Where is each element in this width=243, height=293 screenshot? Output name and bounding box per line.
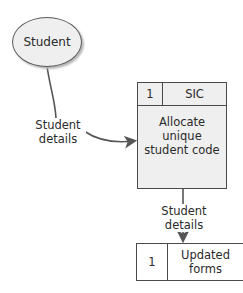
flow-label-line1: Student <box>30 118 86 132</box>
flow-label-student-details-1: Student details <box>30 118 86 146</box>
flow-label-line2: details <box>156 218 212 232</box>
flow-arrow-student-to-process <box>47 66 56 118</box>
process-id: 1 <box>138 83 163 105</box>
store-id: 1 <box>137 244 168 280</box>
store-name: Updated forms <box>168 244 243 280</box>
process-box: 1 SIC Allocate unique student code <box>137 82 227 189</box>
flow-label-student-details-2: Student details <box>156 204 212 232</box>
process-code: SIC <box>163 83 226 105</box>
process-description: Allocate unique student code <box>138 106 226 166</box>
entity-label: Student <box>23 35 70 49</box>
external-entity-student: Student <box>12 17 82 67</box>
flow-arrow-into-process <box>84 131 134 142</box>
flow-label-line2: details <box>30 132 86 146</box>
data-store-updated-forms: 1 Updated forms <box>136 243 243 281</box>
flow-label-line1: Student <box>156 204 212 218</box>
process-header: 1 SIC <box>138 83 226 106</box>
